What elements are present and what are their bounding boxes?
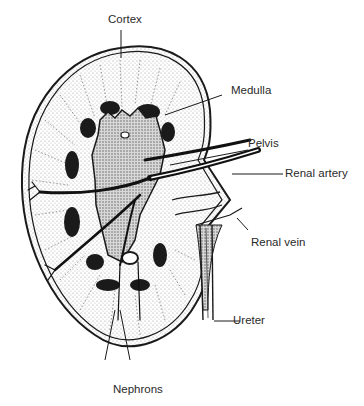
- kidney-illustration: [0, 0, 364, 406]
- kidney-diagram: Cortex Medulla Pelvis Renal artery Renal…: [0, 0, 364, 406]
- label-nephrons: Nephrons: [113, 384, 163, 396]
- label-pelvis: Pelvis: [248, 138, 279, 150]
- label-cortex: Cortex: [108, 14, 142, 26]
- label-renal-artery: Renal artery: [285, 168, 348, 180]
- label-renal-vein: Renal vein: [251, 237, 305, 249]
- label-medulla: Medulla: [231, 85, 271, 97]
- label-ureter: Ureter: [233, 315, 265, 327]
